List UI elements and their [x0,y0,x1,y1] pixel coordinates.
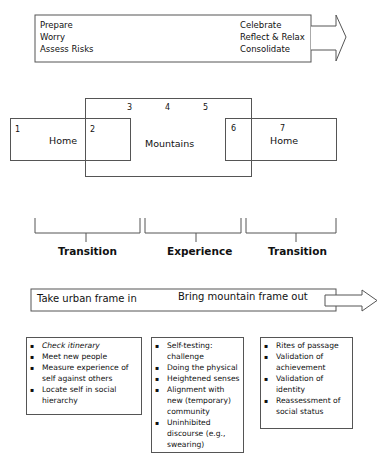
list-item: Doing the physical [153,362,242,373]
stage-number-3: 3 [127,103,132,112]
home-label-right: Home [270,135,298,146]
bracket-transition-2 [246,218,336,242]
phase-label-transition-2: Transition [268,245,327,257]
faded-header [130,0,250,3]
list-item: Self-testing: challenge [153,340,242,362]
phase-label-experience: Experience [167,245,232,257]
item-celebrate: Celebrate [240,19,305,31]
transition-2-list: Rites of passage Validation of achieveme… [262,340,351,417]
frame-right-text: Bring mountain frame out [178,291,308,302]
bracket-transition-1 [35,218,140,242]
list-item: Validation of achievement [262,351,351,373]
stage-number-5: 5 [203,103,208,112]
stage-number-1: 1 [15,125,20,134]
phase-label-transition-1: Transition [58,245,117,257]
item-prepare: Prepare [40,19,94,31]
list-item: Locate self in social hierarchy [28,384,140,406]
home-label-left: Home [49,135,77,146]
frame-left-text: Take urban frame in [37,293,137,304]
stage-number-4: 4 [165,103,170,112]
list-item: Meet new people [28,351,140,362]
stage-number-2: 2 [90,125,95,134]
right-arrow-icon [311,15,346,61]
item-worry: Worry [40,31,94,43]
list-item: Reassessment of social status [262,395,351,417]
list-item: Check itinerary [28,340,140,351]
item-reflect-relax: Reflect & Relax [240,31,305,43]
bracket-experience [145,218,241,242]
list-item: Validation of identity [262,373,351,395]
item-assess-risks: Assess Risks [40,43,94,55]
stage-number-7: 7 [280,124,285,133]
item-consolidate: Consolidate [240,43,305,55]
stage-number-6: 6 [231,124,236,133]
list-item: Heightened senses [153,373,242,384]
top-right-items: Celebrate Reflect & Relax Consolidate [240,19,305,55]
right-arrow-icon [325,290,377,311]
list-item: Rites of passage [262,340,351,351]
list-item: Alignment with new (temporary) community [153,384,242,417]
list-item: Uninhibited discourse (e.g., swearing) [153,417,242,450]
transition-1-list: Check itinerary Meet new people Measure … [28,340,140,406]
mountains-label: Mountains [145,138,194,149]
list-item: Measure experience of self against other… [28,362,140,384]
experience-list: Self-testing: challenge Doing the physic… [153,340,242,450]
top-left-items: Prepare Worry Assess Risks [40,19,94,55]
